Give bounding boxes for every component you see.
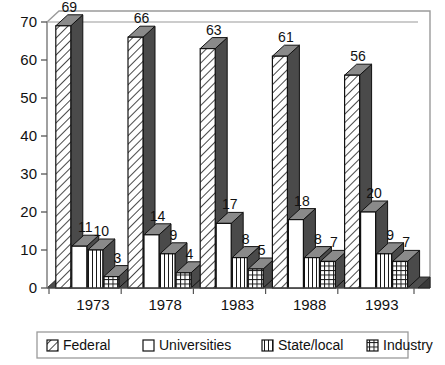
chart-canvas: 010203040506070 691110366149463178561188… — [0, 0, 445, 365]
bar-value-label: 7 — [402, 234, 410, 250]
bar-value-label: 63 — [206, 22, 222, 38]
bar-value-label: 56 — [350, 48, 366, 64]
bar-front-face — [320, 261, 335, 288]
legend-swatch-solid-white — [143, 340, 154, 351]
bar-value-label: 4 — [186, 246, 194, 262]
bar-front-face — [248, 269, 263, 288]
bar-front-face — [72, 246, 87, 288]
bar-front-face — [200, 49, 215, 288]
bar-value-label: 9 — [170, 227, 178, 243]
legend-label: Universities — [159, 337, 231, 353]
bar-value-label: 3 — [113, 250, 121, 266]
bar-value-label: 14 — [150, 208, 166, 224]
y-axis-tick-label: 40 — [20, 127, 37, 144]
bar-front-face — [272, 56, 287, 288]
x-axis-tick-label: 1978 — [149, 296, 182, 313]
y-axis-tick-label: 10 — [20, 241, 37, 258]
bar-value-label: 9 — [386, 227, 394, 243]
bar-front-face — [160, 254, 175, 288]
bar-front-face — [304, 258, 319, 288]
bar-front-face — [345, 75, 360, 288]
bar-chart: 010203040506070 691110366149463178561188… — [0, 0, 445, 365]
y-axis: 010203040506070 — [20, 13, 47, 296]
bar-front-face — [216, 223, 231, 288]
bar-value-label: 17 — [222, 196, 238, 212]
y-axis-tick-label: 0 — [29, 279, 37, 296]
bar-front-face — [232, 258, 247, 288]
bar-front-face — [128, 37, 143, 288]
bar-value-label: 69 — [62, 0, 78, 15]
bar-value-label: 20 — [366, 185, 382, 201]
bar-value-label: 8 — [314, 231, 322, 247]
legend-label: Federal — [63, 337, 110, 353]
bar-value-label: 18 — [294, 193, 310, 209]
bar-value-label: 11 — [78, 219, 93, 235]
y-axis-tick-label: 70 — [20, 13, 37, 30]
y-axis-tick-label: 30 — [20, 165, 37, 182]
legend-swatch-vertical-lines — [262, 340, 273, 351]
x-axis-tick-label: 1993 — [365, 296, 398, 313]
bar-value-label: 7 — [330, 234, 338, 250]
bar-value-label: 10 — [94, 223, 110, 239]
y-axis-tick-label: 20 — [20, 203, 37, 220]
bar-value-label: 8 — [242, 231, 250, 247]
y-axis-tick-label: 60 — [20, 51, 37, 68]
bar-value-label: 5 — [258, 242, 266, 258]
legend-label: State/local — [278, 337, 343, 353]
chart-legend: FederalUniversitiesState/localIndustry — [37, 332, 433, 358]
x-axis: 19731978198319881993 — [47, 288, 418, 313]
y-axis-tick-label: 50 — [20, 89, 37, 106]
bar-value-label: 66 — [134, 10, 150, 26]
x-axis-tick-label: 1988 — [293, 296, 326, 313]
legend-label: Industry — [383, 337, 433, 353]
bar-front-face — [88, 250, 103, 288]
bar-front-face — [361, 212, 376, 288]
x-axis-tick-label: 1973 — [76, 296, 109, 313]
legend-swatch-grid-crosshatch — [367, 340, 378, 351]
bar-front-face — [176, 273, 191, 288]
legend-swatch-diagonal-hatch — [47, 340, 58, 351]
bar-front-face — [288, 220, 303, 288]
x-axis-tick-label: 1983 — [221, 296, 254, 313]
bar-front-face — [104, 277, 119, 288]
bar-front-face — [393, 261, 408, 288]
bar-front-face — [377, 254, 392, 288]
bar-front-face — [56, 26, 71, 288]
bar-value-label: 61 — [278, 29, 294, 45]
bar-front-face — [144, 235, 159, 288]
